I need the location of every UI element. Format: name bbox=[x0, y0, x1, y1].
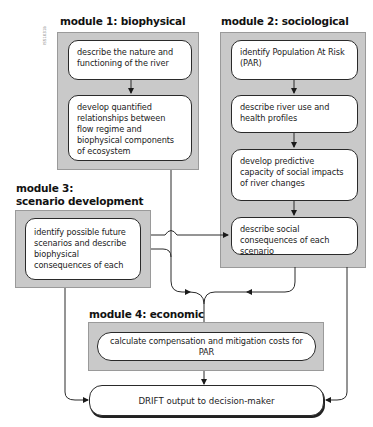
merge-left bbox=[190, 292, 204, 304]
line-module3-to-social-consequences bbox=[151, 231, 228, 236]
line-module2-to-economic bbox=[247, 267, 295, 292]
line-module3-to-economic bbox=[151, 249, 171, 257]
connector-lines bbox=[0, 0, 373, 427]
merge-right bbox=[204, 292, 215, 304]
line-module3-to-drift bbox=[65, 288, 88, 400]
line-module2-to-drift bbox=[326, 267, 347, 400]
